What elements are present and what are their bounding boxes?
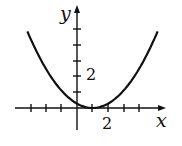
y-tick-label: 2 — [86, 65, 96, 84]
x-tick-label: 2 — [102, 114, 112, 133]
x-axis-label: x — [156, 109, 167, 131]
parabola-graph: y x 2 2 — [0, 0, 182, 146]
y-axis-arrow-icon — [74, 5, 80, 13]
y-axis-label: y — [60, 2, 71, 24]
